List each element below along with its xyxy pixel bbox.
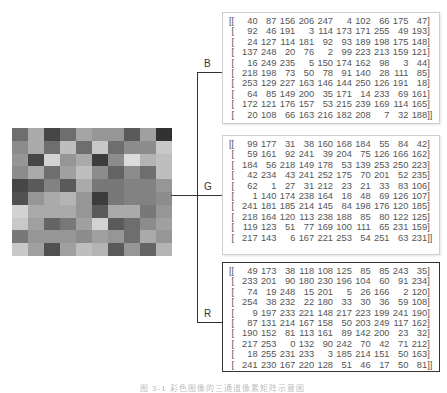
- matrix-cell: 84: [333, 201, 352, 211]
- matrix-cell: 198: [352, 201, 371, 211]
- matrix-cell: 0: [276, 339, 295, 349]
- bracket-open: [: [229, 160, 239, 170]
- matrix-cell: 46: [258, 26, 277, 36]
- matrix-cell: 132: [295, 339, 314, 349]
- matrix-cell: 231: [276, 349, 295, 359]
- pixel-cell: [92, 243, 108, 256]
- pixel-cell: [124, 166, 140, 179]
- pixel-cell: [92, 205, 108, 218]
- matrix-cell: 231: [408, 233, 427, 243]
- matrix-cell: 142: [352, 328, 371, 338]
- matrix-cell: 77: [295, 222, 314, 232]
- matrix-row: [16249235515017416298344]: [229, 58, 435, 68]
- matrix-cell: 17: [371, 360, 390, 370]
- matrix-row: [241271141819293189198175148]: [229, 37, 435, 47]
- matrix-cell: 33: [333, 297, 352, 307]
- matrix-cell: 181: [295, 37, 314, 47]
- matrix-cell: 73: [276, 68, 295, 78]
- matrix-cell: 175: [390, 16, 409, 26]
- matrix-row: [18255231233318521415150163]: [229, 349, 435, 359]
- matrix-cell: 117: [390, 318, 409, 328]
- pixel-cell: [124, 141, 140, 154]
- matrix-cell: 148: [314, 308, 333, 318]
- matrix-cell: 56: [258, 160, 277, 170]
- matrix-cell: 24: [239, 37, 258, 47]
- matrix-cell: 128: [314, 360, 333, 370]
- pixel-cell: [156, 243, 172, 256]
- matrix-cell: 64: [239, 89, 258, 99]
- bracket-close: ]: [427, 297, 435, 307]
- matrix-row: [9197233221148217223199241190]: [229, 308, 435, 318]
- matrix-cell: 163: [295, 78, 314, 88]
- pixel-cell: [28, 218, 44, 231]
- pixel-cell: [140, 128, 156, 141]
- pixel-cell: [44, 230, 60, 243]
- matrix-cell: 185: [333, 349, 352, 359]
- pixel-cell: [76, 154, 92, 167]
- bracket-close: ]: [427, 160, 435, 170]
- matrix-cell: 129: [258, 78, 277, 88]
- matrix-cell: 221: [314, 233, 333, 243]
- matrix-cell: 107: [408, 191, 427, 201]
- matrix-cell: 162: [408, 318, 427, 328]
- matrix-cell: 126: [390, 191, 409, 201]
- matrix-cell: 184: [352, 139, 371, 149]
- bracket-close: ]: [427, 16, 435, 26]
- pixel-cell: [28, 128, 44, 141]
- matrix-cell: 93: [333, 37, 352, 47]
- matrix-cell: 253: [239, 78, 258, 88]
- pixel-cell: [44, 205, 60, 218]
- matrix-cell: 197: [258, 308, 277, 318]
- matrix-cell: 214: [276, 318, 295, 328]
- matrix-cell: 99: [333, 47, 352, 57]
- pixel-cell: [108, 179, 124, 192]
- matrix-cell: 59: [239, 149, 258, 159]
- matrix-cell: 22: [295, 297, 314, 307]
- matrix-cell: 85: [352, 212, 371, 222]
- pixel-cell: [76, 128, 92, 141]
- bracket-close: ]]: [427, 360, 435, 370]
- matrix-cell: 55: [371, 139, 390, 149]
- matrix-row: [42234432412521757020152235]: [229, 170, 435, 180]
- matrix-cell: 230: [314, 276, 333, 286]
- matrix-cell: 247: [314, 16, 333, 26]
- matrix-cell: 218: [239, 212, 258, 222]
- pixel-cell: [156, 230, 172, 243]
- pixel-cell: [124, 192, 140, 205]
- matrix-cell: 111: [352, 222, 371, 232]
- pixel-cell: [156, 166, 172, 179]
- bracket-open: [: [229, 212, 239, 222]
- matrix-row: [2181641201132381888580122125]: [229, 212, 435, 222]
- matrix-cell: 2: [314, 47, 333, 57]
- matrix-cell: 158: [314, 318, 333, 328]
- matrix-cell: 231: [390, 222, 409, 232]
- matrix-cell: 38: [295, 139, 314, 149]
- matrix-cell: 108: [408, 297, 427, 307]
- pixel-cell: [44, 179, 60, 192]
- pixel-cell: [28, 166, 44, 179]
- matrix-cell: 242: [333, 339, 352, 349]
- bracket-close: ]: [427, 191, 435, 201]
- matrix-cell: 254: [239, 297, 258, 307]
- matrix-cell: 70: [352, 170, 371, 180]
- bracket-close: ]: [427, 339, 435, 349]
- bracket-close: ]: [427, 47, 435, 57]
- bracket-open: [: [229, 37, 239, 47]
- pixel-cell: [60, 218, 76, 231]
- branch-label-r: R: [204, 308, 211, 319]
- pixel-cell: [140, 205, 156, 218]
- matrix-cell: 53: [314, 99, 333, 109]
- matrix-cell: 214: [352, 349, 371, 359]
- matrix-cell: 232: [276, 297, 295, 307]
- matrix-cell: 26: [352, 287, 371, 297]
- matrix-cell: 188: [408, 110, 427, 120]
- matrix-cell: 98: [371, 58, 390, 68]
- matrix-cell: 42: [408, 139, 427, 149]
- matrix-cell: 9: [239, 308, 258, 318]
- matrix-cell: 35: [314, 89, 333, 99]
- matrix-cell: 235: [408, 170, 427, 180]
- bracket-close: ]: [427, 139, 435, 149]
- bracket-open: [: [229, 170, 239, 180]
- matrix-row: [2412301672201285146175081]]: [229, 360, 435, 370]
- matrix-row: [6485149200351711423369161]: [229, 89, 435, 99]
